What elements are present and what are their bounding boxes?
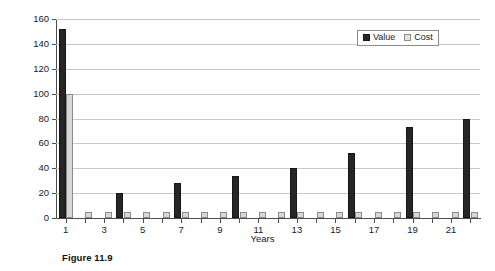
x-axis-title: Years bbox=[0, 233, 495, 244]
cost-swatch-icon bbox=[404, 34, 411, 41]
y-tick-mark bbox=[52, 168, 56, 169]
cost-bar bbox=[297, 212, 304, 218]
y-tick-mark bbox=[52, 119, 56, 120]
cost-bar bbox=[182, 212, 189, 218]
cost-bar bbox=[336, 212, 343, 218]
value-bar bbox=[116, 193, 123, 218]
y-tick-label: 20 bbox=[38, 188, 49, 198]
x-tick-mark bbox=[432, 219, 433, 223]
value-bar bbox=[232, 176, 239, 218]
x-axis-title-text: Years bbox=[251, 233, 275, 244]
x-tick-mark bbox=[162, 219, 163, 223]
y-tick-label: 0 bbox=[44, 213, 49, 223]
x-axis-line bbox=[56, 218, 481, 219]
x-tick-mark bbox=[413, 219, 414, 223]
y-tick-mark bbox=[52, 193, 56, 194]
x-tick-mark bbox=[220, 219, 221, 223]
y-tick-label: 140 bbox=[33, 39, 49, 49]
value-bar bbox=[348, 153, 355, 218]
cost-bar bbox=[163, 212, 170, 218]
cost-bar bbox=[413, 212, 420, 218]
y-tick-mark bbox=[52, 218, 56, 219]
value-bar bbox=[174, 183, 181, 218]
cost-bar bbox=[66, 94, 73, 218]
y-tick-label: 120 bbox=[33, 64, 49, 74]
cost-bar bbox=[278, 212, 285, 218]
bar-chart: Dollars 020406080100120140160 1357911131… bbox=[0, 0, 495, 240]
cost-bar bbox=[317, 212, 324, 218]
cost-bar bbox=[259, 212, 266, 218]
cost-bar bbox=[471, 212, 478, 218]
cost-bar bbox=[394, 212, 401, 218]
x-tick-mark bbox=[143, 219, 144, 223]
x-tick-mark bbox=[316, 219, 317, 223]
y-tick-label: 40 bbox=[38, 164, 49, 174]
x-tick-mark bbox=[239, 219, 240, 223]
cost-bar bbox=[355, 212, 362, 218]
x-tick-mark bbox=[123, 219, 124, 223]
y-tick-mark bbox=[52, 44, 56, 45]
x-tick-mark bbox=[374, 219, 375, 223]
cost-bar bbox=[240, 212, 247, 218]
x-tick-mark bbox=[355, 219, 356, 223]
cost-bar bbox=[201, 212, 208, 218]
cost-bar bbox=[143, 212, 150, 218]
y-tick-mark bbox=[52, 143, 56, 144]
gridline bbox=[56, 94, 480, 95]
x-tick-mark bbox=[278, 219, 279, 223]
y-tick-label: 60 bbox=[38, 139, 49, 149]
chart-legend: Value Cost bbox=[357, 30, 439, 46]
y-tick-mark bbox=[52, 94, 56, 95]
legend-item-cost: Cost bbox=[404, 33, 433, 42]
gridline bbox=[56, 69, 480, 70]
x-tick-mark bbox=[104, 219, 105, 223]
legend-label-value: Value bbox=[373, 33, 395, 42]
x-tick-mark bbox=[470, 219, 471, 223]
gridline bbox=[56, 168, 480, 169]
x-tick-mark bbox=[451, 219, 452, 223]
cost-bar bbox=[105, 212, 112, 218]
plot-area bbox=[56, 19, 480, 218]
cost-bar bbox=[124, 212, 131, 218]
cost-bar bbox=[375, 212, 382, 218]
x-tick-mark bbox=[335, 219, 336, 223]
cost-bar bbox=[432, 212, 439, 218]
figure-container: Dollars 020406080100120140160 1357911131… bbox=[0, 0, 495, 271]
gridline bbox=[56, 19, 480, 20]
y-tick-mark bbox=[52, 69, 56, 70]
gridline bbox=[56, 143, 480, 144]
y-tick-label: 160 bbox=[33, 14, 49, 24]
value-swatch-icon bbox=[363, 34, 370, 41]
y-tick-mark bbox=[52, 19, 56, 20]
cost-bar bbox=[220, 212, 227, 218]
value-bar bbox=[59, 29, 66, 218]
y-tick-label: 80 bbox=[38, 114, 49, 124]
legend-item-value: Value bbox=[363, 33, 395, 42]
x-tick-mark bbox=[201, 219, 202, 223]
cost-bar bbox=[452, 212, 459, 218]
legend-label-cost: Cost bbox=[414, 33, 433, 42]
y-tick-label: 100 bbox=[33, 89, 49, 99]
x-tick-mark bbox=[181, 219, 182, 223]
figure-caption: Figure 11.9 bbox=[62, 252, 113, 263]
x-tick-mark bbox=[85, 219, 86, 223]
value-bar bbox=[290, 168, 297, 218]
gridline bbox=[56, 119, 480, 120]
cost-bar bbox=[85, 212, 92, 218]
x-tick-mark bbox=[393, 219, 394, 223]
value-bar bbox=[463, 119, 470, 219]
x-tick-mark bbox=[66, 219, 67, 223]
x-tick-mark bbox=[258, 219, 259, 223]
x-tick-mark bbox=[297, 219, 298, 223]
value-bar bbox=[406, 127, 413, 218]
